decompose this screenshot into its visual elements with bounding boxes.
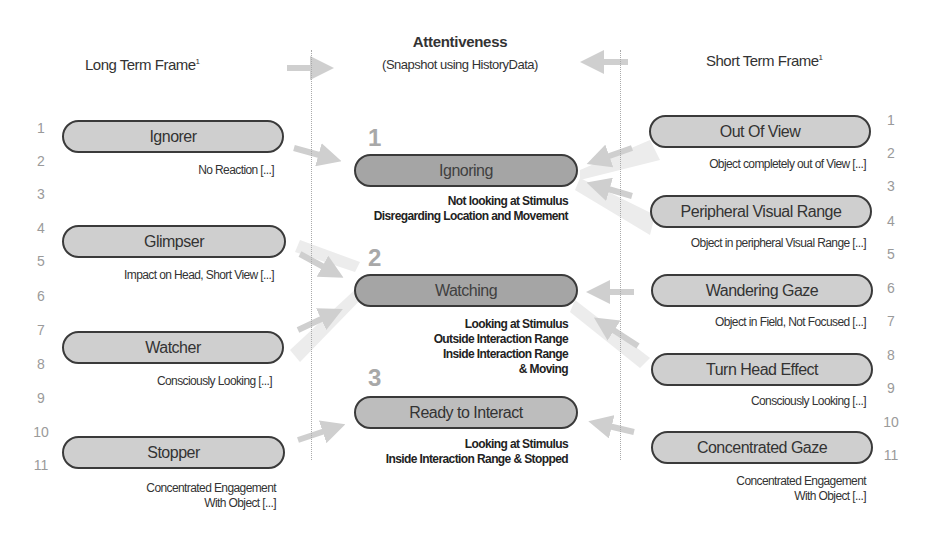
- attentiveness-subtitle: (Snapshot using HistoryData): [300, 57, 620, 72]
- long-term-watcher: Watcher: [62, 331, 284, 364]
- row-number: 5: [880, 246, 902, 262]
- row-number: 2: [880, 145, 902, 161]
- attentiveness-ignoring-desc: Not looking at Stimulus Disregarding Loc…: [340, 194, 568, 224]
- row-number: 9: [30, 390, 52, 406]
- short-term-frame-title: Short Term Frame: [706, 52, 819, 69]
- row-number: 8: [30, 356, 52, 372]
- long-term-stopper-desc: Concentrated Engagement With Object [...…: [60, 481, 276, 511]
- attentiveness-ignoring: Ignoring: [354, 154, 578, 187]
- desc-line: Looking at Stimulus: [340, 437, 568, 452]
- desc-line: Not looking at Stimulus: [340, 194, 568, 209]
- short-term-out-of-view: Out Of View: [649, 115, 871, 148]
- column-divider-right: [620, 50, 621, 460]
- long-term-ignorer-desc: No Reaction [...]: [60, 163, 274, 178]
- desc-line: Concentrated Engagement: [640, 474, 866, 489]
- row-number: 1: [880, 112, 902, 128]
- short-term-concentrated-gaze: Concentrated Gaze: [651, 431, 873, 464]
- long-term-glimpser-desc: Impact on Head, Short View [...]: [60, 268, 274, 283]
- desc-line: Looking at Stimulus: [340, 317, 568, 332]
- row-number: 9: [880, 380, 902, 396]
- long-term-glimpser: Glimpser: [62, 225, 286, 258]
- short-term-out-of-view-desc: Object completely out of View [...]: [640, 157, 866, 172]
- attentiveness-number-1: 1: [368, 124, 381, 152]
- row-number: 11: [30, 457, 52, 473]
- row-number: 3: [880, 178, 902, 194]
- row-number: 6: [880, 280, 902, 296]
- row-number: 3: [30, 186, 52, 202]
- desc-line: Concentrated Engagement: [60, 481, 276, 496]
- row-number: 5: [30, 253, 52, 269]
- long-term-stopper: Stopper: [62, 436, 285, 469]
- footnote-marker: 1: [819, 53, 823, 62]
- row-number: 1: [30, 120, 52, 136]
- row-number: 10: [30, 424, 52, 440]
- short-term-peripheral-desc: Object in peripheral Visual Range [...]: [640, 236, 866, 251]
- row-number: 7: [30, 322, 52, 338]
- row-number: 8: [880, 347, 902, 363]
- desc-line: Outside Interaction Range: [340, 332, 568, 347]
- desc-line: Disregarding Location and Movement: [340, 209, 568, 224]
- attentiveness-watching: Watching: [354, 274, 578, 307]
- attentiveness-number-3: 3: [368, 364, 381, 392]
- long-term-frame-header: Long Term Frame1: [85, 56, 200, 73]
- row-number: 2: [30, 153, 52, 169]
- long-term-frame-title: Long Term Frame: [85, 56, 196, 73]
- desc-line: With Object [...]: [60, 496, 276, 511]
- short-term-wandering-gaze: Wandering Gaze: [651, 274, 873, 307]
- attentiveness-title: Attentiveness: [300, 33, 620, 50]
- desc-line: With Object [...]: [640, 489, 866, 504]
- desc-line: Inside Interaction Range & Stopped: [340, 452, 568, 467]
- long-term-watcher-desc: Consciously Looking [...]: [60, 374, 272, 389]
- short-term-turn-head-desc: Consciously Looking [...]: [640, 394, 866, 409]
- footnote-marker: 1: [196, 57, 200, 66]
- short-term-turn-head-effect: Turn Head Effect: [651, 353, 873, 386]
- desc-line: Inside Interaction Range: [340, 347, 568, 362]
- row-number: 6: [30, 288, 52, 304]
- row-number: 11: [880, 447, 902, 463]
- attentiveness-ready-desc: Looking at Stimulus Inside Interaction R…: [340, 437, 568, 467]
- row-number: 4: [30, 220, 52, 236]
- row-number: 7: [880, 313, 902, 329]
- row-number: 4: [880, 213, 902, 229]
- row-number: 10: [880, 414, 902, 430]
- attentiveness-number-2: 2: [368, 244, 381, 272]
- long-term-ignorer: Ignorer: [62, 120, 284, 153]
- attentiveness-ready-to-interact: Ready to Interact: [354, 396, 578, 429]
- short-term-frame-header: Short Term Frame1: [706, 52, 823, 69]
- short-term-concentrated-gaze-desc: Concentrated Engagement With Object [...…: [640, 474, 866, 504]
- short-term-wandering-gaze-desc: Object in Field, Not Focused [...]: [640, 315, 866, 330]
- short-term-peripheral-visual-range: Peripheral Visual Range: [650, 195, 872, 228]
- column-divider-left: [311, 50, 312, 460]
